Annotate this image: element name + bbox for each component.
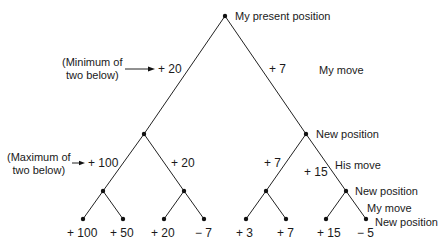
value-level2-ll: + 100 (88, 157, 118, 170)
new-position-label: New position (375, 216, 438, 228)
leaf-value: + 20 (151, 227, 175, 240)
leaf-value: + 7 (277, 227, 294, 240)
my-move-label: My move (319, 64, 364, 76)
leaf-value: + 100 (67, 227, 97, 240)
minimum-note: (Minimum of two below) (62, 56, 123, 82)
maximum-note: (Maximum of two below) (7, 151, 71, 177)
leaf-value: − 5 (357, 227, 374, 240)
value-level2-rl: + 7 (264, 157, 281, 170)
minimax-tree-diagram: My present position My move New position… (0, 0, 440, 243)
value-level2-lr: + 20 (171, 157, 195, 170)
leaf-value: + 3 (236, 227, 253, 240)
leaf-value: + 15 (317, 227, 341, 240)
my-move-label: My move (367, 202, 412, 214)
leaf-value: − 7 (195, 227, 212, 240)
new-position-label: New position (316, 128, 379, 140)
value-level1-right: + 7 (269, 63, 286, 76)
his-move-label: His move (335, 159, 381, 171)
value-level2-rr: + 15 (304, 166, 328, 179)
value-level1-left: + 20 (158, 63, 182, 76)
root-label: My present position (235, 10, 330, 22)
new-position-label: New position (355, 185, 418, 197)
leaf-value: + 50 (110, 227, 134, 240)
